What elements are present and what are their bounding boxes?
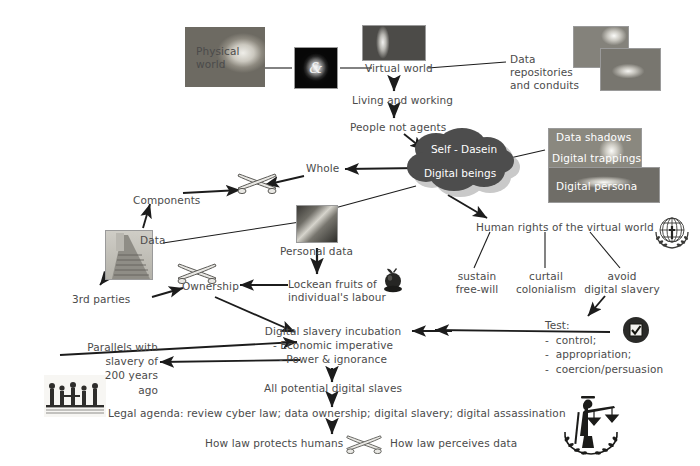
personal-data-photo (296, 205, 338, 243)
lady-justice-scales-icon (558, 392, 624, 464)
node-third-parties: 3rd parties (72, 293, 130, 306)
node-data-repositories: Data repositories and conduits (510, 53, 579, 92)
node-personal-data: Personal data (280, 245, 353, 258)
node-curtail-colonialism: curtail colonialism (511, 270, 581, 296)
virtual-world-photo (362, 25, 426, 61)
node-sustain-free-will: sustain free-will (444, 270, 510, 296)
who-emblem-glyph (652, 212, 692, 252)
data-repository-photo (600, 48, 661, 91)
cloud-label-self-dasein: Self - Dasein (404, 143, 524, 157)
node-avoid-digital-slavery: avoid digital slavery (583, 270, 661, 296)
edge-human-rights-to-avoid (590, 232, 620, 268)
ampersand-photo: & (294, 47, 338, 89)
node-human-rights: Human rights of the virtual world (476, 221, 654, 234)
apple-icon (382, 268, 404, 298)
node-physical-world: Physical world (196, 45, 240, 71)
node-digital-slavery-incubation: Digital slavery incubation - Economic im… (250, 324, 416, 367)
edge-virtual-to-repositories (428, 62, 506, 68)
node-lockean-fruits: Lockean fruits of individual's labour (288, 278, 386, 304)
node-how-law-perceives: How law perceives data (390, 437, 517, 450)
crossed-swords-icon-law (343, 434, 385, 458)
node-whole: Whole (306, 162, 339, 175)
who-globe-laurel-emblem-icon (652, 212, 692, 256)
cloud-label-digital-beings: Digital beings (400, 167, 520, 181)
node-how-law-protects: How law protects humans (205, 437, 339, 450)
node-parallels-slavery: Parallels with slavery of 200 years ago (62, 340, 158, 397)
node-data: Data (140, 234, 165, 247)
crossed-swords-icon-ownership (176, 262, 218, 288)
node-living-and-working: Living and working (352, 94, 453, 107)
checkbox-checked-icon (622, 316, 650, 348)
edge-data-to-components (143, 204, 150, 228)
node-legal-agenda: Legal agenda: review cyber law; data own… (108, 407, 558, 420)
crossed-swords-glyph (236, 172, 278, 194)
edge-components-to-swords (183, 190, 240, 193)
node-all-potential-slaves: All potential digital slaves (252, 382, 414, 395)
caption-digital-persona: Digital persona (556, 180, 637, 193)
node-people-not-agents: People not agents (350, 121, 446, 134)
caption-data-shadows: Data shadows (556, 131, 631, 144)
justice-scales-glyph (558, 392, 624, 460)
apple-glyph (382, 268, 404, 294)
caption-digital-trappings: Digital trappings (552, 152, 641, 165)
crossed-swords-glyph-ownership (176, 262, 218, 284)
edge-data-to-right (163, 222, 300, 243)
concept-map-canvas: & (0, 0, 700, 466)
edge-avoid-to-test (588, 296, 605, 316)
node-virtual-world: Virtual world (365, 62, 433, 75)
checkbox-glyph (622, 316, 650, 344)
crossed-swords-glyph-law (343, 434, 385, 454)
edge-human-rights-to-sustain (474, 232, 490, 268)
edge-third-parties-to-ownership (152, 288, 183, 297)
crossed-swords-icon (236, 172, 278, 198)
node-components: Components (133, 194, 200, 207)
